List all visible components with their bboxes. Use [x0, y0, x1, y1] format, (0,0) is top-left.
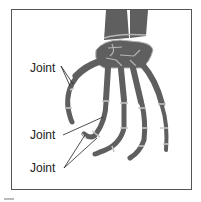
- joint-label-knuckle: Joint: [30, 129, 55, 141]
- metacarpals: [76, 62, 162, 104]
- joint-label-thumb: Joint: [30, 62, 55, 74]
- forearm-bones: [104, 10, 148, 40]
- joint-label-finger: Joint: [30, 162, 55, 174]
- finger-phalanges: [68, 78, 167, 158]
